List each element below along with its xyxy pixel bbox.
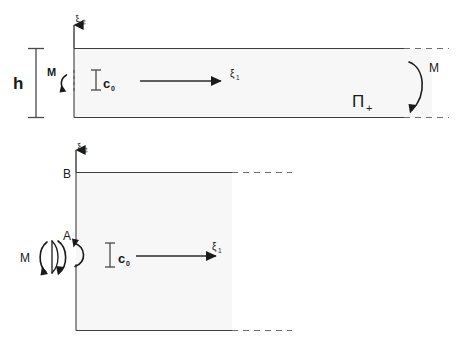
bottom-point-a-label: A [63, 229, 71, 243]
domain-sublabel: + [366, 102, 372, 114]
bottom-axis-xi1-sublabel: 1 [218, 247, 222, 254]
bottom-moment-arc-left [40, 242, 47, 272]
bottom-region-fill [76, 173, 232, 331]
top-left-moment-label: M [47, 66, 56, 78]
top-axis-xi1-label: ξ [230, 68, 235, 80]
bottom-crack-sublabel: 0 [126, 260, 130, 267]
figure-canvas: h M M c 0 ξ 1 ξ 2 Π + B A M c 0 ξ 1 ξ 2 [0, 0, 464, 352]
bottom-panel-group [40, 150, 292, 331]
bottom-crack-label: c [118, 251, 125, 266]
top-crack-sublabel: 0 [111, 85, 115, 92]
top-beam-fill [74, 49, 432, 118]
top-crack-label: c [103, 76, 110, 91]
top-right-moment-label: M [429, 61, 439, 75]
bottom-axis-xi2-sublabel: 2 [83, 146, 88, 154]
bottom-point-b-label: B [63, 167, 71, 181]
top-axis-xi2-label: ξ [74, 13, 81, 26]
height-label: h [13, 74, 23, 93]
bottom-axis-xi1-label: ξ [212, 241, 217, 253]
diagram-svg: h M M c 0 ξ 1 ξ 2 Π + B A M c 0 ξ 1 ξ 2 [0, 0, 464, 352]
top-panel-group [28, 25, 449, 118]
top-axis-xi1-sublabel: 1 [236, 74, 240, 81]
domain-label: Π [352, 92, 364, 111]
bottom-moment-arc-right-arrowhead [56, 266, 64, 276]
bottom-axis-xi2-label: ξ [76, 141, 83, 154]
bottom-moment-label: M [20, 251, 30, 265]
top-axis-xi2-sublabel: 2 [81, 18, 86, 26]
